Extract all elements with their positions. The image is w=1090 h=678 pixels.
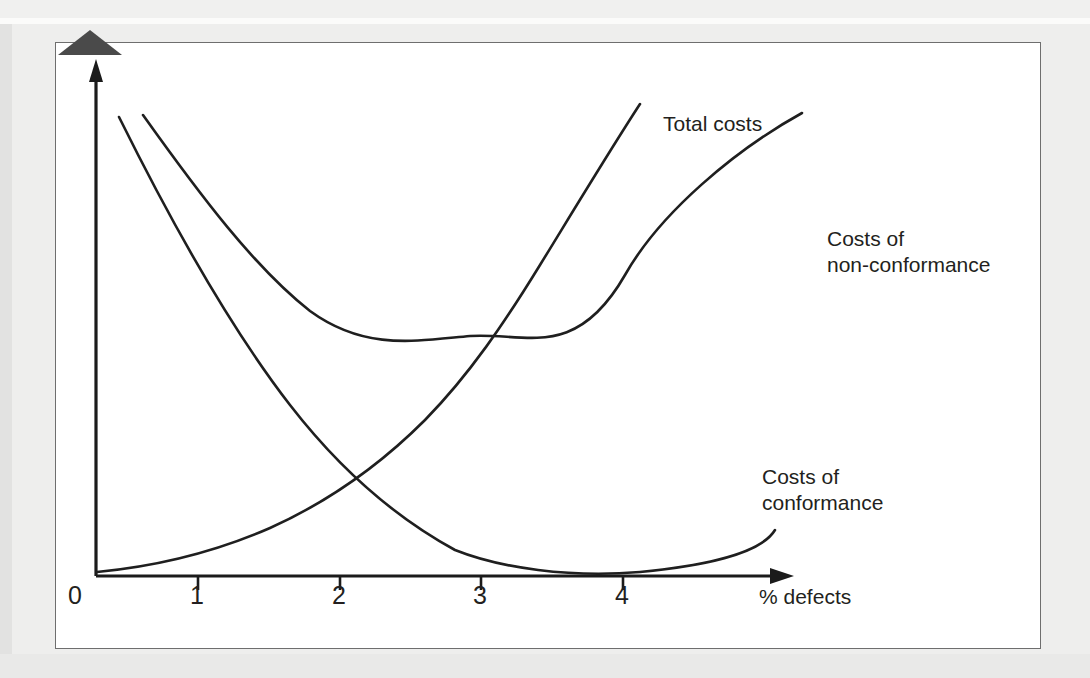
figure-frame <box>55 42 1041 649</box>
series-label-conformance-line2: conformance <box>762 490 883 516</box>
x-tick-label-2: 2 <box>332 580 346 611</box>
series-label-non-conformance-line2: non-conformance <box>827 252 990 278</box>
x-tick-label-3: 3 <box>473 580 487 611</box>
paper-left-strip <box>0 24 12 678</box>
x-tick-label-4: 4 <box>615 580 629 611</box>
x-tick-label-0: 0 <box>68 580 82 611</box>
series-label-conformance-line1: Costs of <box>762 464 839 490</box>
x-tick-label-1: 1 <box>190 580 204 611</box>
x-axis-title: % defects <box>759 584 851 610</box>
paper-bottom-strip <box>0 654 1090 678</box>
series-label-total-costs: Total costs <box>663 111 762 137</box>
series-label-non-conformance-line1: Costs of <box>827 226 904 252</box>
paper-band-top <box>0 0 1090 18</box>
page-background: 0 1 2 3 4 % defects Total costs Costs of… <box>0 0 1090 678</box>
